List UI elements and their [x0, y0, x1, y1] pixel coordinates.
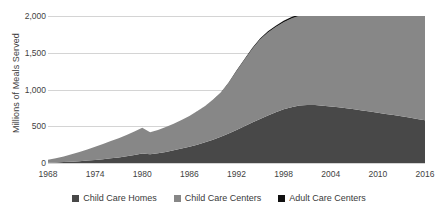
plot-area — [48, 16, 425, 163]
legend-label: Adult Care Centers — [289, 193, 366, 203]
y-tick-label: 2,000 — [2, 12, 46, 21]
legend-label: Child Care Homes — [83, 193, 157, 203]
gridline — [48, 163, 425, 164]
legend-item[interactable]: Child Care Centers — [174, 193, 262, 203]
x-tick-label: 1968 — [28, 170, 68, 179]
y-tick-label: 1,500 — [2, 49, 46, 58]
y-tick-label: 1,000 — [2, 86, 46, 95]
y-tick-label: 0 — [2, 159, 46, 168]
chart-legend: Child Care HomesChild Care CentersAdult … — [0, 193, 438, 203]
legend-swatch-icon — [174, 195, 181, 202]
legend-label: Child Care Centers — [185, 193, 262, 203]
x-tick-label: 2004 — [311, 170, 351, 179]
x-tick-label: 2016 — [405, 170, 438, 179]
legend-item[interactable]: Adult Care Centers — [278, 193, 366, 203]
y-axis-title: Millions of Meals Served — [11, 13, 21, 153]
x-tick-label: 1992 — [217, 170, 257, 179]
x-tick-label: 1998 — [264, 170, 304, 179]
stacked-area-paths — [48, 16, 425, 163]
legend-item[interactable]: Child Care Homes — [72, 193, 157, 203]
x-tick-label: 1980 — [122, 170, 162, 179]
x-tick-label: 2010 — [358, 170, 398, 179]
y-tick-label: 500 — [2, 122, 46, 131]
legend-swatch-icon — [72, 195, 79, 202]
x-tick-label: 1986 — [169, 170, 209, 179]
x-tick-label: 1974 — [75, 170, 115, 179]
legend-swatch-icon — [278, 195, 285, 202]
area-chart: Millions of Meals Served 05001,0001,5002… — [0, 0, 438, 215]
